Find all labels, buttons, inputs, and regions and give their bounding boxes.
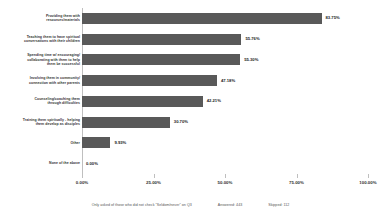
bar-value-label: 55.30%: [244, 58, 258, 62]
category-label: Counseling/coaching them through difficu…: [0, 97, 82, 106]
category-label: Involving them in community/ connection …: [0, 76, 82, 85]
x-axis-tick-marks: [82, 174, 368, 178]
category-label: Training them spiritually - helping them…: [0, 118, 82, 127]
category-label: Spending time w/ encouraging/ collaborat…: [0, 53, 82, 66]
bar-row: Involving them in community/ connection …: [0, 70, 381, 91]
bar-value-label: 47.18%: [221, 79, 235, 83]
x-tick-mark: [154, 174, 155, 178]
x-tick-label: 75.00%: [289, 180, 304, 186]
bar: [82, 96, 203, 107]
bar-track: 42.21%: [82, 91, 368, 112]
skipped-count: Skipped: 112: [268, 202, 289, 208]
bar-value-label: 9.93%: [114, 141, 126, 145]
x-tick-label: 100.00%: [359, 180, 376, 186]
bar-row: Other9.93%: [0, 133, 381, 154]
category-label: Teaching them to have spiritual conversa…: [0, 35, 82, 44]
bar-value-label: 55.76%: [245, 37, 259, 41]
x-tick-label: 50.00%: [218, 180, 233, 186]
bar-track: 47.18%: [82, 70, 368, 91]
bar-row: Teaching them to have spiritual conversa…: [0, 29, 381, 50]
bar-value-label: 30.70%: [174, 120, 188, 124]
bar-row: None of the above0.00%: [0, 153, 381, 174]
bar-row: Spending time w/ encouraging/ collaborat…: [0, 50, 381, 71]
bar-track: 83.75%: [82, 8, 368, 29]
bar: [82, 117, 170, 128]
x-tick-mark: [297, 174, 298, 178]
bar-row: Training them spiritually - helping them…: [0, 112, 381, 133]
x-tick-mark: [82, 174, 83, 178]
bar: [82, 34, 241, 45]
plot-area: Providing them with resources/materials8…: [0, 8, 381, 174]
bar-track: 0.00%: [82, 153, 368, 174]
bar-row: Providing them with resources/materials8…: [0, 8, 381, 29]
chart-footer: Only asked of those who did not check "S…: [0, 200, 381, 210]
x-tick-mark: [368, 174, 369, 178]
category-label: Other: [0, 141, 82, 145]
answered-count: Answered: 443: [218, 202, 242, 208]
bar: [82, 137, 110, 148]
bar-track: 9.93%: [82, 133, 368, 154]
x-tick-label: 0.00%: [76, 180, 88, 186]
bar-value-label: 83.75%: [326, 16, 340, 20]
x-axis-tick-labels: 0.00%25.00%50.00%75.00%100.00%: [0, 180, 381, 188]
bar: [82, 75, 217, 86]
x-tick-label: 25.00%: [146, 180, 161, 186]
x-tick-mark: [225, 174, 226, 178]
bar-track: 30.70%: [82, 112, 368, 133]
bar-rows: Providing them with resources/materials8…: [0, 8, 381, 174]
bar: [82, 13, 322, 24]
category-label: Providing them with resources/materials: [0, 14, 82, 23]
bar-row: Counseling/coaching them through difficu…: [0, 91, 381, 112]
bar: [82, 54, 240, 65]
bar-track: 55.76%: [82, 29, 368, 50]
bar-value-label: 42.21%: [207, 99, 221, 103]
category-label: None of the above: [0, 161, 82, 165]
bar-value-label: 0.00%: [86, 162, 98, 166]
bar-chart: Providing them with resources/materials8…: [0, 0, 381, 217]
bar-track: 55.30%: [82, 50, 368, 71]
footer-note: Only asked of those who did not check "S…: [92, 202, 192, 208]
